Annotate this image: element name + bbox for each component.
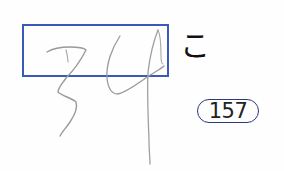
okurigana-text: こ [180,30,210,62]
question-number: 157 [209,100,248,122]
question-number-badge: 157 [197,99,259,123]
answer-box[interactable] [22,24,169,77]
worksheet-page: こ 157 [0,0,284,171]
